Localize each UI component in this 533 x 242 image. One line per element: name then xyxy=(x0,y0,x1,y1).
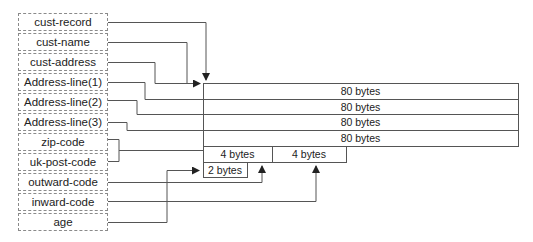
memory-row-1: 80 bytes xyxy=(203,84,518,99)
memory-row-3: 80 bytes xyxy=(203,115,518,130)
memory-row-2: 80 bytes xyxy=(203,100,518,115)
memory-cell-2bytes: 2 bytes xyxy=(203,163,247,178)
memory-cell-4bytes-2: 4 bytes xyxy=(272,147,346,162)
memory-row-4: 80 bytes xyxy=(203,131,518,146)
memory-cell-4bytes-1: 4 bytes xyxy=(203,147,272,162)
